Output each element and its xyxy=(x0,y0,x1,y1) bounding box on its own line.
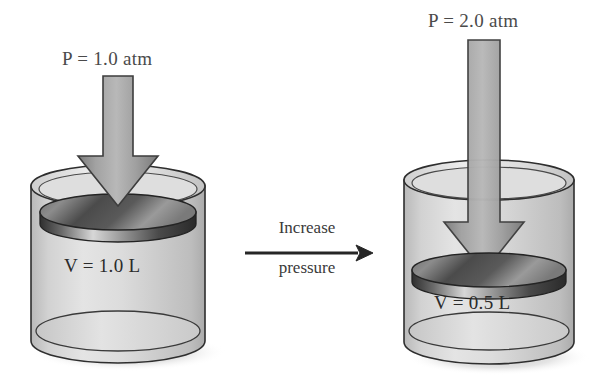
left-pressure-arrow xyxy=(78,76,158,206)
down-arrow-narrow-long-icon xyxy=(444,40,524,272)
down-arrow-wide-icon xyxy=(78,76,158,206)
left-cylinder-rim-outer xyxy=(31,165,205,207)
right-cylinder-rim-outer xyxy=(404,160,574,200)
left-cylinder-floor xyxy=(36,311,200,351)
right-cylinder-floor xyxy=(409,312,569,350)
right-cylinder-shadow xyxy=(406,339,590,375)
right-cylinder-group xyxy=(404,160,590,375)
left-volume-label: V = 1.0 L xyxy=(64,255,140,277)
left-piston-band xyxy=(40,212,196,242)
right-piston-top xyxy=(412,253,566,287)
transition-label-line2: pressure xyxy=(252,258,362,278)
left-pressure-label: P = 1.0 atm xyxy=(62,48,152,70)
boyles-law-figure: P = 1.0 atm V = 1.0 L Increase pressure … xyxy=(0,0,601,392)
transition-label-line1: Increase xyxy=(252,218,362,238)
right-pressure-arrow xyxy=(444,40,524,272)
left-piston-top xyxy=(40,194,196,230)
right-cylinder-rim-inner xyxy=(412,167,566,199)
left-cylinder-rim-inner xyxy=(39,172,197,206)
right-volume-label: V = 0.5 L xyxy=(434,292,510,314)
right-cylinder-body xyxy=(404,180,574,364)
right-pressure-label: P = 2.0 atm xyxy=(428,10,518,32)
left-cylinder-shadow xyxy=(30,333,226,371)
